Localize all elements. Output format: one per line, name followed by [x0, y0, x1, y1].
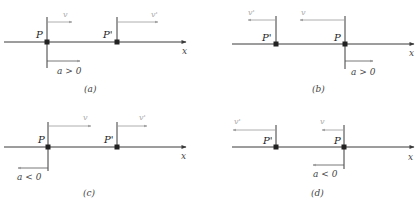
- point-pprime-label: P': [261, 32, 271, 43]
- velocity-label-vprime: v': [248, 8, 255, 17]
- acceleration-label: a > 0: [57, 66, 82, 76]
- panel-c: x P v P' v' a < 0 (c): [4, 113, 186, 198]
- point-p: [343, 42, 348, 47]
- panel-caption: (c): [83, 188, 96, 198]
- point-p-label: P: [333, 135, 341, 146]
- point-p: [45, 40, 50, 45]
- panel-caption: (d): [311, 188, 324, 198]
- velocity-label-v: v: [301, 8, 306, 17]
- panel-a: x P v P' v' a > 0 (a): [4, 10, 187, 94]
- x-axis-label: x: [408, 152, 413, 162]
- velocity-label-vprime: v': [139, 113, 146, 122]
- point-pprime: [274, 42, 279, 47]
- panel-caption: (a): [84, 84, 97, 94]
- panel-caption: (b): [312, 84, 325, 94]
- velocity-label-vprime: v': [234, 117, 241, 126]
- point-p: [46, 145, 51, 150]
- velocity-label-vprime: v': [151, 10, 158, 19]
- panel-b: x P' v' P v a > 0 (b): [232, 8, 414, 94]
- point-p-label: P: [333, 32, 341, 43]
- point-p: [342, 145, 347, 150]
- point-pprime-label: P': [262, 135, 272, 146]
- x-axis-label: x: [181, 151, 186, 161]
- point-pprime-label: P': [102, 29, 112, 40]
- acceleration-label: a < 0: [17, 172, 42, 182]
- point-pprime-label: P': [103, 134, 113, 145]
- velocity-label-v: v: [63, 10, 68, 19]
- kinematics-diagram: x P v P' v' a > 0 (a) x P' v' P v a > 0 …: [0, 0, 419, 203]
- x-axis-label: x: [182, 46, 187, 56]
- x-axis-label: x: [409, 48, 414, 58]
- velocity-label-v: v: [83, 113, 88, 122]
- point-pprime: [115, 145, 120, 150]
- acceleration-label: a < 0: [313, 169, 338, 179]
- point-pprime: [274, 145, 279, 150]
- point-p-label: P: [35, 29, 43, 40]
- point-p-label: P: [37, 134, 45, 145]
- panel-d: x P' v' P v a < 0 (d): [232, 117, 414, 198]
- velocity-label-v: v: [320, 117, 325, 126]
- acceleration-label: a > 0: [351, 67, 376, 77]
- point-pprime: [115, 40, 120, 45]
